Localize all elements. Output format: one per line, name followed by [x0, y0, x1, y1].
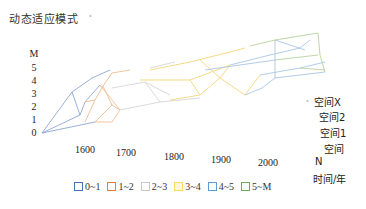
legend-item-4-5[interactable]: 4~5: [208, 181, 234, 192]
legend-swatch-icon: [241, 182, 250, 191]
legend-item-3-4[interactable]: 3~4: [174, 181, 200, 192]
z-label-space-1: 空间1: [320, 125, 346, 140]
legend-label: 2~3: [152, 181, 167, 192]
chart-legend: 0~1 1~2 2~3 3~4 4~5 5~M: [74, 181, 274, 192]
legend-item-1-2[interactable]: 1~2: [107, 181, 133, 192]
legend-swatch-icon: [141, 182, 150, 191]
legend-item-2-3[interactable]: 2~3: [141, 181, 167, 192]
legend-label: 4~5: [219, 181, 234, 192]
x-tick-2000: 2000: [258, 157, 278, 168]
legend-item-5-m[interactable]: 5~M: [241, 181, 271, 192]
x-axis-title: 时间/年: [313, 171, 346, 186]
legend-swatch-icon: [107, 182, 116, 191]
z-label-space-2: 空间2: [319, 109, 345, 124]
x-tick-1600: 1600: [75, 144, 95, 155]
z-label-n: N: [315, 156, 322, 167]
series-5-m: [250, 33, 325, 72]
legend-label: 5~M: [252, 181, 271, 192]
series-0-1: [42, 70, 110, 133]
series-3-4: [140, 48, 260, 100]
x-tick-1700: 1700: [116, 147, 136, 158]
legend-item-0-1[interactable]: 0~1: [74, 181, 100, 192]
x-tick-1900: 1900: [211, 154, 231, 165]
z-label-space-x: 空间X: [314, 94, 341, 109]
z-label-marker-icon: •: [306, 97, 309, 106]
legend-label: 0~1: [85, 181, 100, 192]
legend-swatch-icon: [174, 182, 183, 191]
chart-plot-area: [0, 0, 366, 209]
z-label-space: 空间: [324, 141, 344, 156]
legend-label: 3~4: [185, 181, 200, 192]
legend-swatch-icon: [74, 182, 83, 191]
x-tick-1800: 1800: [164, 151, 184, 162]
legend-label: 1~2: [118, 181, 133, 192]
series-4-5: [205, 40, 325, 95]
legend-swatch-icon: [208, 182, 217, 191]
